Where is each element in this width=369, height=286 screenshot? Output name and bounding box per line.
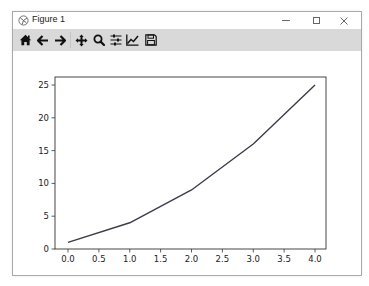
x-tick-label: 3.0 <box>246 254 260 264</box>
configure-subplots-button[interactable] <box>107 31 124 49</box>
forward-button[interactable] <box>51 31 68 49</box>
y-tick-label: 0 <box>44 244 49 254</box>
magnifier-icon <box>93 34 105 46</box>
close-icon <box>340 17 348 25</box>
move-icon <box>75 34 88 47</box>
navigation-toolbar <box>13 29 361 51</box>
figure-canvas[interactable]: 0.00.51.01.52.02.53.03.54.00510152025 <box>13 51 361 275</box>
y-tick-label: 15 <box>38 146 49 156</box>
y-tick-label: 10 <box>38 178 49 188</box>
x-tick-label: 2.0 <box>185 254 199 264</box>
axes-frame <box>55 77 326 249</box>
close-button[interactable] <box>329 12 359 29</box>
x-tick-label: 4.0 <box>308 254 322 264</box>
x-tick-label: 0.5 <box>92 254 106 264</box>
minimize-button[interactable] <box>271 12 301 29</box>
x-tick-label: 1.0 <box>123 254 137 264</box>
x-tick-label: 0.0 <box>61 254 75 264</box>
x-tick-label: 2.5 <box>216 254 230 264</box>
back-button[interactable] <box>34 31 51 49</box>
x-tick-label: 1.5 <box>154 254 168 264</box>
y-tick-label: 25 <box>38 80 49 90</box>
floppy-disk-icon <box>145 34 157 46</box>
x-tick-label: 3.5 <box>277 254 291 264</box>
window-title: Figure 1 <box>32 14 65 24</box>
maximize-button[interactable] <box>301 12 331 29</box>
line-plot[interactable]: 0.00.51.01.52.02.53.03.54.00510152025 <box>13 51 361 276</box>
zoom-button[interactable] <box>90 31 107 49</box>
home-button[interactable] <box>17 31 34 49</box>
figure-window: Figure 1 <box>12 11 362 276</box>
pan-button[interactable] <box>73 31 90 49</box>
minimize-icon <box>282 20 290 21</box>
arrow-right-icon <box>54 35 66 46</box>
matplotlib-app-icon <box>18 15 29 26</box>
y-tick-label: 5 <box>44 211 49 221</box>
edit-axis-button[interactable] <box>124 31 141 49</box>
line-chart-icon <box>126 34 139 46</box>
title-bar[interactable]: Figure 1 <box>13 12 361 29</box>
save-button[interactable] <box>142 31 159 49</box>
arrow-left-icon <box>37 35 49 46</box>
home-icon <box>19 34 32 46</box>
toolbar-separator <box>70 32 71 48</box>
sliders-icon <box>110 34 122 46</box>
y-tick-label: 20 <box>38 113 49 123</box>
maximize-icon <box>313 17 320 24</box>
